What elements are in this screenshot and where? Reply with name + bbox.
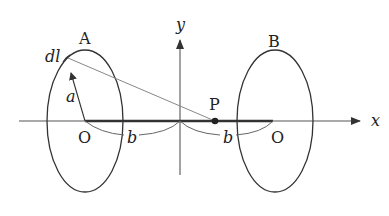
label-loop-a: A — [78, 29, 91, 48]
label-center-b: O — [271, 128, 284, 147]
label-loop-b: B — [268, 32, 280, 51]
label-radius-a: a — [66, 87, 76, 106]
label-b-right: b — [223, 128, 233, 147]
label-center-a: O — [78, 128, 91, 147]
point-p — [212, 118, 219, 125]
label-b-left: b — [127, 128, 137, 147]
label-point-p: P — [209, 95, 220, 114]
label-x-axis: x — [371, 111, 380, 130]
label-y-axis: y — [175, 15, 186, 34]
diagram-canvas: A B O O dl a b b P x y — [0, 0, 389, 216]
label-dl: dl — [45, 47, 60, 66]
dl-to-p-line — [68, 58, 215, 121]
